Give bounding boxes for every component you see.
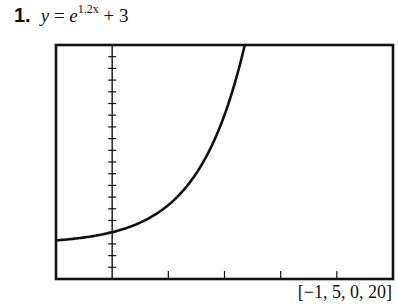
axes (108, 45, 337, 279)
curve (56, 45, 245, 240)
window-settings-label: [−1, 5, 0, 20] (298, 282, 392, 303)
graph (0, 0, 398, 306)
viewing-window-frame (56, 45, 393, 279)
